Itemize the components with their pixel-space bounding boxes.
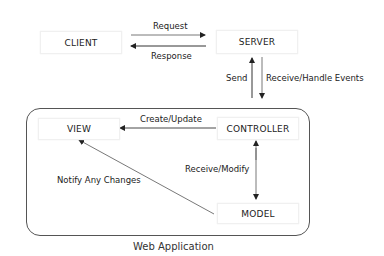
client-node: CLIENT <box>40 31 122 54</box>
receive-modify-label: Receive/Modify <box>185 164 249 174</box>
controller-node: CONTROLLER <box>217 117 299 140</box>
model-label: MODEL <box>241 209 274 219</box>
server-node: SERVER <box>216 30 298 54</box>
send-label: Send <box>226 73 247 83</box>
server-label: SERVER <box>239 37 275 47</box>
view-node: VIEW <box>38 118 120 140</box>
request-label: Request <box>153 21 188 31</box>
receive-handle-label: Receive/Handle Events <box>266 73 364 83</box>
view-label: VIEW <box>67 124 91 134</box>
model-node: MODEL <box>217 203 299 224</box>
controller-label: CONTROLLER <box>227 124 290 134</box>
create-update-label: Create/Update <box>140 114 202 124</box>
notify-label: Notify Any Changes <box>57 175 141 185</box>
response-label: Response <box>151 51 192 61</box>
client-label: CLIENT <box>64 38 97 48</box>
web-application-caption: Web Application <box>133 241 214 252</box>
